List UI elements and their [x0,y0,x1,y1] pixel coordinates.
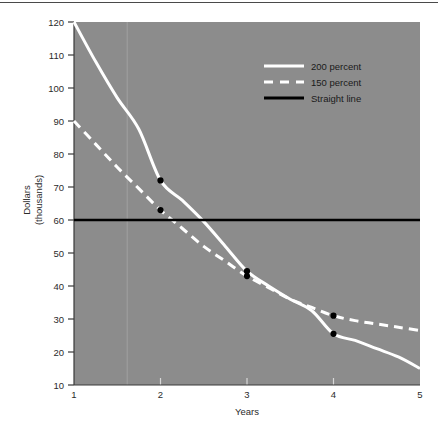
y-axis-tick-label: 120 [48,17,64,28]
y-axis-tick-label: 40 [53,281,64,292]
y-axis-tick-label: 20 [53,347,64,358]
y-axis-tick-label: 100 [48,83,64,94]
x-axis-tick-label: 3 [244,389,249,400]
y-axis-tick-label: 10 [53,380,64,391]
data-point-marker [244,273,250,279]
y-axis-tick-label: 50 [53,248,64,259]
x-axis-tick-label: 4 [331,389,336,400]
y-axis-title-line1: Dollars [21,185,32,215]
legend-label-1: 150 percent [311,77,362,88]
data-point-marker [330,313,336,319]
data-point-marker [157,207,163,213]
figure-canvas: 10203040506070809010011012012345YearsDol… [0,0,438,435]
x-axis-tick-label: 2 [158,389,163,400]
y-axis-tick-label: 90 [53,116,64,127]
y-axis-tick-label: 80 [53,149,64,160]
data-point-marker [330,331,336,337]
data-point-marker [157,177,163,183]
plot-area-background [74,22,420,385]
y-axis-tick-label: 110 [49,50,64,61]
y-axis-tick-label: 60 [53,215,64,226]
legend-label-0: 200 percent [311,61,362,72]
y-axis-tick-label: 30 [53,314,64,325]
x-axis-title: Years [235,406,259,417]
chart-svg: 10203040506070809010011012012345YearsDol… [0,0,438,435]
y-axis-tick-label: 70 [53,182,64,193]
y-axis-title-line2: (thousands) [33,175,44,225]
legend-label-2: Straight line [311,93,361,104]
x-axis-tick-label: 5 [417,389,422,400]
x-axis-tick-label: 1 [71,389,76,400]
